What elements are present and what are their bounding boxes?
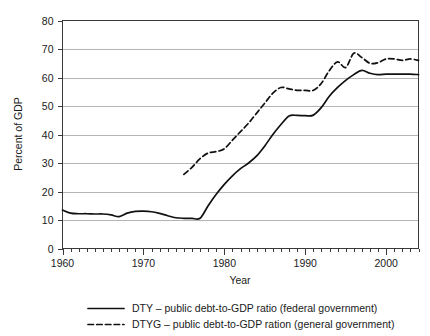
x-axis-title: Year [229, 274, 251, 286]
x-tick-label: 1970 [132, 257, 156, 269]
y-tick-label: 50 [42, 100, 54, 112]
y-tick-label: 10 [42, 214, 54, 226]
y-tick-label: 70 [42, 43, 54, 55]
x-tick-label: 2000 [374, 257, 398, 269]
y-axis-tick-labels: 01020304050607080 [42, 15, 54, 255]
y-axis-tick-marks [58, 22, 63, 250]
series-paths [63, 53, 419, 219]
y-tick-label: 80 [42, 15, 54, 27]
x-tick-label: 1990 [294, 257, 318, 269]
chart-container: 01020304050607080 19601970198019902000 P… [0, 0, 430, 336]
y-axis-title: Percent of GDP [12, 97, 24, 171]
legend: DTY – public debt-to-GDP ratio (federal … [88, 302, 394, 330]
x-axis-tick-labels: 19601970198019902000 [51, 257, 398, 269]
legend-label-dtyg: DTYG – public debt-to-GDP ration (genera… [132, 318, 394, 330]
series-line-dtyg [184, 53, 419, 174]
y-tick-label: 0 [48, 243, 54, 255]
y-tick-label: 20 [42, 186, 54, 198]
y-tick-label: 60 [42, 72, 54, 84]
gridlines [63, 50, 419, 221]
legend-label-dty: DTY – public debt-to-GDP ratio (federal … [132, 302, 377, 314]
debt-to-gdp-line-chart: 01020304050607080 19601970198019902000 P… [0, 0, 430, 336]
series-line-dty [63, 70, 419, 219]
x-tick-label: 1980 [213, 257, 237, 269]
y-tick-label: 30 [42, 157, 54, 169]
x-tick-label: 1960 [51, 257, 75, 269]
x-axis-minor-ticks [64, 249, 420, 255]
plot-frame [63, 21, 419, 249]
y-tick-label: 40 [42, 129, 54, 141]
